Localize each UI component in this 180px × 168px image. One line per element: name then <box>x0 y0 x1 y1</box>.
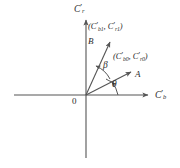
angle-beta-label: β <box>103 61 108 71</box>
y-axis-label-sub: r <box>82 7 84 14</box>
chroma-vector-figure: C′r C′b 0 (C′b1, C′r1) (C′b0, C′r0) B A … <box>0 0 180 168</box>
vector-b-label: B <box>88 37 94 46</box>
x-axis-label: C′b <box>155 89 166 100</box>
point-label-a-sub-2: r0 <box>140 56 145 62</box>
x-axis-label-sub: b <box>163 93 166 100</box>
angle-theta-label: θ <box>112 80 117 90</box>
vector-a-label: A <box>135 70 141 79</box>
origin-label: 0 <box>72 97 77 106</box>
point-label-b: (C′b1, C′r1) <box>88 22 123 33</box>
point-label-b-comma: , <box>104 21 106 31</box>
y-axis-label: C′r <box>74 3 84 14</box>
point-label-a: (C′b0, C′r0) <box>113 52 148 63</box>
point-label-b-sub-2: r1 <box>115 26 120 32</box>
point-label-a-comma: , <box>129 51 131 61</box>
vector-a-arrow <box>86 72 131 95</box>
